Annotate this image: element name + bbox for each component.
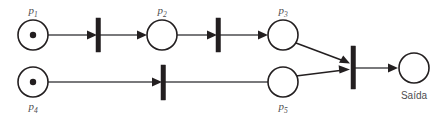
place-label-saida: Saída xyxy=(401,90,428,101)
place-circle[interactable] xyxy=(268,67,298,97)
arrow-head-icon xyxy=(388,64,398,73)
token-dot xyxy=(30,32,36,38)
place-circle[interactable] xyxy=(147,20,177,50)
petri-net-canvas: p1 p2 p3 p4 p5 Saída xyxy=(0,0,444,116)
place-p3[interactable]: p3 xyxy=(268,4,298,50)
arc-p2-to-t2 xyxy=(177,31,217,40)
place-label-p4: p4 xyxy=(27,100,38,115)
arrow-head-icon xyxy=(152,78,162,87)
place-p4[interactable]: p4 xyxy=(18,67,48,115)
arc-p3-to-t4 xyxy=(296,43,350,64)
place-label-p2: p2 xyxy=(156,4,167,19)
arc-p4-to-t3 xyxy=(48,78,162,87)
arc-line xyxy=(296,70,344,76)
place-circle[interactable] xyxy=(399,53,429,83)
petri-net-diagram: p1 p2 p3 p4 p5 Saída xyxy=(0,0,444,116)
arc-p1-to-t1 xyxy=(48,31,97,40)
arc-p5-to-t4 xyxy=(296,65,350,76)
transition-t4[interactable] xyxy=(351,46,356,89)
place-p1[interactable]: p1 xyxy=(18,4,48,50)
transition-t2[interactable] xyxy=(216,18,221,52)
transition-t3[interactable] xyxy=(161,65,166,100)
arrow-head-icon xyxy=(137,31,147,40)
arrow-head-icon xyxy=(207,31,217,40)
arc-t4-to-pout xyxy=(355,64,398,73)
arrow-head-icon xyxy=(339,65,350,73)
place-circle[interactable] xyxy=(268,20,298,50)
arc-t2-to-p3 xyxy=(220,31,268,40)
place-label-p5: p5 xyxy=(277,100,288,115)
arc-line xyxy=(296,43,344,61)
place-p2[interactable]: p2 xyxy=(147,4,177,50)
place-label-p1: p1 xyxy=(27,4,37,19)
arrow-head-icon xyxy=(258,31,268,40)
place-p5[interactable]: p5 xyxy=(268,67,298,115)
place-label-p3: p3 xyxy=(277,4,288,19)
token-dot xyxy=(30,79,36,85)
transition-t1[interactable] xyxy=(96,18,101,52)
arc-t1-to-p2 xyxy=(100,31,147,40)
arrow-head-icon xyxy=(87,31,97,40)
place-saida[interactable]: Saída xyxy=(399,53,429,101)
